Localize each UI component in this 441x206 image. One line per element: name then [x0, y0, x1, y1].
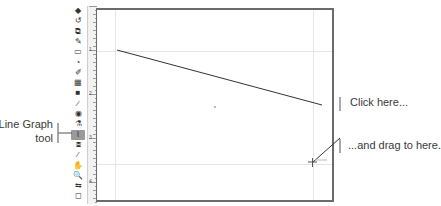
line-graph-tool-label: Line Graph tool — [0, 117, 53, 145]
drag-here-label: ...and drag to here. — [348, 139, 441, 151]
tool-label-line2: tool — [0, 131, 53, 145]
drawn-line — [117, 50, 322, 105]
tool-label-line1: Line Graph — [0, 117, 53, 131]
drag-leader-line — [313, 138, 340, 162]
click-here-label: Click here... — [350, 96, 408, 108]
drag-cursor-icon — [308, 158, 327, 167]
